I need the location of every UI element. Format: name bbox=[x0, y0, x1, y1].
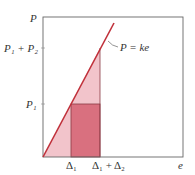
line-label: P = ke bbox=[119, 41, 149, 53]
y-tick-p1: P₁ bbox=[25, 98, 37, 110]
x-axis-label: e bbox=[178, 159, 183, 171]
load-deflection-diagram: P P₁ + P₂ P₁ P = ke Δ₁ Δ₁ + Δ₂ e bbox=[0, 0, 195, 175]
x-tick-delta1-plus-delta2: Δ₁ + Δ₂ bbox=[92, 159, 125, 171]
x-tick-delta1: Δ₁ bbox=[66, 159, 77, 171]
y-tick-p1-plus-p2: P₁ + P₂ bbox=[3, 42, 38, 54]
work-area-rectangle bbox=[71, 104, 100, 157]
y-axis-label: P bbox=[29, 12, 37, 24]
